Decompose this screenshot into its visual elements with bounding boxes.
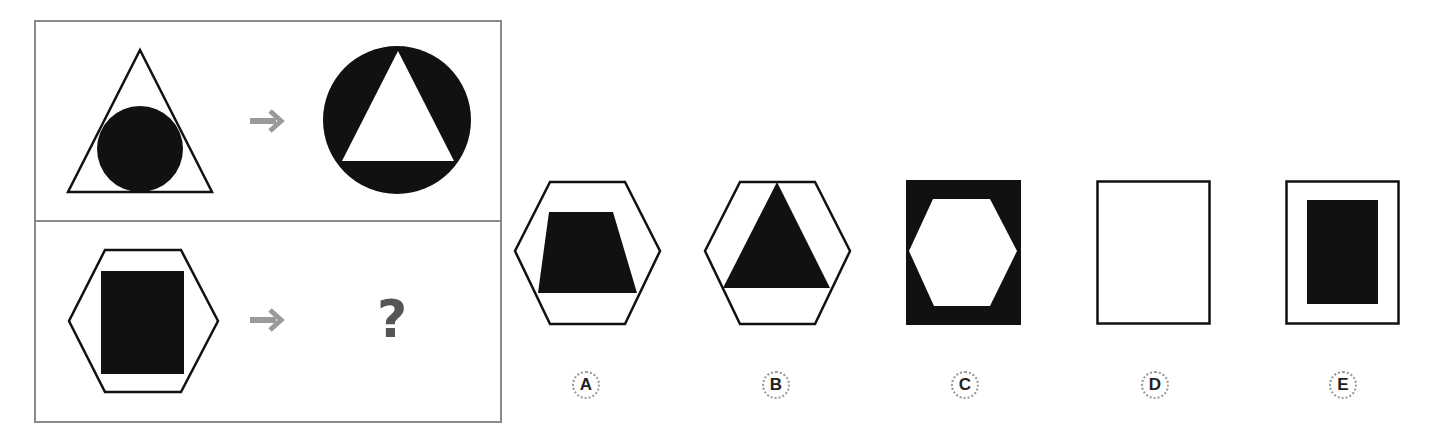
arrow-right-icon (248, 108, 288, 134)
arrow-right-icon (248, 307, 288, 333)
option-e-figure[interactable] (1285, 180, 1401, 326)
option-b-figure[interactable] (702, 180, 852, 327)
option-d-figure[interactable] (1096, 180, 1212, 326)
hexagon-rectangle-figure (66, 248, 221, 395)
panel-divider (34, 220, 502, 222)
question-mark: ? (372, 293, 412, 345)
option-a-figure[interactable] (512, 180, 662, 327)
triangle-circle-figure (60, 45, 220, 200)
option-c-label[interactable]: C (951, 371, 979, 399)
option-d-label[interactable]: D (1141, 371, 1169, 399)
option-b-label[interactable]: B (762, 371, 790, 399)
circle-triangle-figure (320, 45, 475, 195)
option-a-label[interactable]: A (572, 371, 600, 399)
option-e-label[interactable]: E (1329, 371, 1357, 399)
option-c-figure[interactable] (906, 180, 1022, 326)
